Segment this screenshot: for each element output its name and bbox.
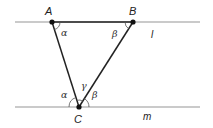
- angle-arc-c-alpha: [69, 98, 76, 108]
- line-l-label: l: [151, 29, 154, 40]
- parallel-lines-triangle-diagram: A B C l m α β α γ β: [0, 0, 213, 128]
- angle-arc-c-gamma: [77, 100, 83, 101]
- angle-label-b-beta: β: [111, 28, 118, 39]
- point-a-dot: [49, 19, 54, 24]
- angle-label-c-beta: β: [91, 89, 98, 100]
- angle-label-a-alpha: α: [61, 27, 68, 38]
- point-c-dot: [76, 104, 81, 109]
- point-a-label: A: [44, 5, 52, 17]
- point-b-dot: [130, 19, 135, 24]
- angle-arc-b-beta: [125, 22, 129, 29]
- angle-label-c-gamma: γ: [81, 80, 87, 91]
- angle-arc-c-beta: [84, 99, 89, 107]
- point-b-label: B: [129, 5, 136, 17]
- angle-label-c-alpha: α: [61, 89, 68, 100]
- angle-arc-a-alpha: [54, 22, 60, 30]
- point-c-label: C: [74, 113, 82, 125]
- line-m-label: m: [143, 111, 151, 122]
- segment-bc: [79, 22, 133, 107]
